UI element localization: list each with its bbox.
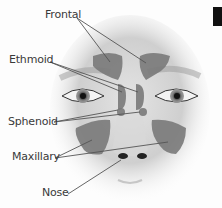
face-illustration	[0, 0, 222, 208]
corner-marker	[213, 7, 222, 26]
sinus-diagram: Frontal Ethmoid Sphenoid Maxillary Nose	[0, 0, 222, 208]
label-maxillary: Maxillary	[12, 150, 60, 163]
label-sphenoid: Sphenoid	[8, 115, 58, 128]
label-frontal: Frontal	[45, 8, 81, 21]
label-nose: Nose	[42, 186, 69, 199]
label-ethmoid: Ethmoid	[9, 53, 53, 66]
